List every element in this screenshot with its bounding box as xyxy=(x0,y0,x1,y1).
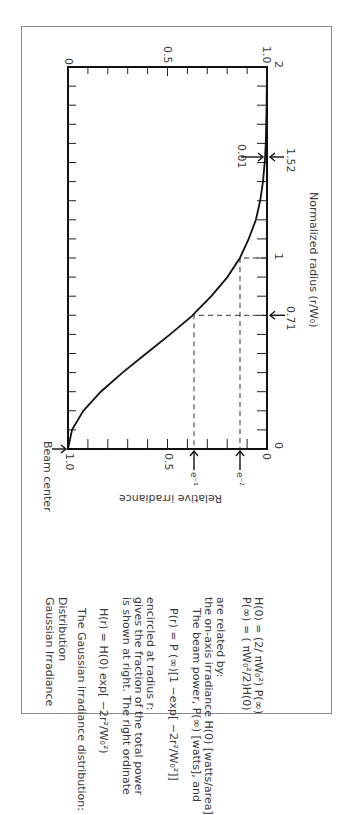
top-axis-label-05: 0.5 xyxy=(161,46,174,64)
annotation-001: 0.01 xyxy=(235,144,248,169)
bottom-axis-label-10: 1.0 xyxy=(63,453,76,471)
formula-p: P(r) = P (∞)[1 −exp[ −2r²/W₀²]] xyxy=(167,608,180,781)
right-axis-label-1: 1 xyxy=(272,253,285,260)
description-line3: encircled at radius r: xyxy=(144,597,157,711)
right-axis-label-2: 2 xyxy=(272,61,285,68)
formula-h: H(r) = H(0) exp[ −2r²/W₀²) xyxy=(97,608,110,754)
annotation-152: 1.52 xyxy=(284,148,297,173)
power-line3: are related by: xyxy=(214,597,227,677)
description-title-line2: Distribution xyxy=(56,597,69,661)
beam-center-label: Beam center xyxy=(41,441,54,512)
bottom-axis-label-0: 0 xyxy=(260,453,273,460)
e-minus-2-arrow xyxy=(236,451,244,470)
y-axis-title: Relative irradiance xyxy=(119,492,222,505)
annotation-e-minus-1: e⁻¹ xyxy=(187,472,200,486)
annotation-071: 0.71 xyxy=(284,306,297,331)
description-intro: The Gaussian irradiance distribution: xyxy=(75,608,88,811)
bottom-axis-label-05: 0.5 xyxy=(162,453,175,471)
beam-center-arrow xyxy=(52,445,66,453)
guide-lines xyxy=(194,258,267,449)
bottom-axis-ticks xyxy=(88,439,247,449)
x-axis-title: Normalized radius (r/W₀) xyxy=(307,192,320,327)
left-axis-ticks xyxy=(68,86,76,430)
top-axis-ticks xyxy=(88,67,247,76)
right-axis-label-0: 0 xyxy=(272,442,285,449)
annotation-e-minus-2: e⁻² xyxy=(233,472,246,486)
irradiance-curve xyxy=(68,67,267,449)
plot-box xyxy=(68,67,267,449)
relation-line2: H(0) = (2/ πW₀²) P(∞) xyxy=(252,597,265,714)
description-title-line1: Gaussian Irradiance xyxy=(43,597,56,706)
e-minus-1-arrow xyxy=(190,451,198,470)
r-071-arrow xyxy=(270,311,285,319)
top-axis-label-0: 0 xyxy=(62,58,75,65)
